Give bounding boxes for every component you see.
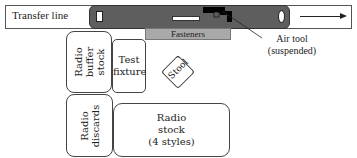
label-line: Radio xyxy=(73,47,84,78)
radio-stock: Radio stock (4 styles) xyxy=(113,103,230,157)
label-line: Test xyxy=(113,54,145,66)
label-line: Radio xyxy=(79,104,90,147)
test-fixture: Test fixture xyxy=(112,39,146,93)
radio-buffer-stock: Radio buffer stock xyxy=(66,31,112,93)
label-line: fixture xyxy=(113,66,145,78)
air-tool-label: Air tool (suspended) xyxy=(262,33,322,57)
label-line: stock xyxy=(95,47,106,78)
label-line: Radio xyxy=(114,112,229,124)
label-line: stock xyxy=(114,124,229,136)
radio-discards-label: Radio discards xyxy=(79,104,101,147)
label-line: discards xyxy=(90,104,101,147)
label-line: (4 styles) xyxy=(114,136,229,148)
air-tool-label-line2: (suspended) xyxy=(262,45,322,57)
radio-buffer-stock-label: Radio buffer stock xyxy=(73,47,106,78)
radio-discards: Radio discards xyxy=(66,94,113,157)
label-line: buffer xyxy=(84,47,95,78)
fasteners-bin: Fasteners xyxy=(145,28,231,40)
radio-stock-label: Radio stock (4 styles) xyxy=(114,112,229,148)
air-tool-label-line1: Air tool xyxy=(262,33,322,45)
test-fixture-label: Test fixture xyxy=(113,54,145,78)
fasteners-label: Fasteners xyxy=(171,29,205,39)
